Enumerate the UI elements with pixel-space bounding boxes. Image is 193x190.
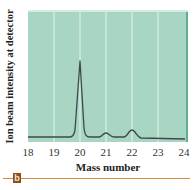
plot-panel — [28, 10, 187, 142]
x-tick: 21 — [101, 146, 112, 158]
x-tick: 20 — [75, 146, 86, 158]
x-axis-label: Mass number — [28, 161, 188, 173]
x-tick: 24 — [179, 146, 190, 158]
panel-divider-rule — [3, 178, 190, 179]
panel-right-edge — [186, 12, 188, 142]
x-tick: 22 — [127, 146, 138, 158]
x-tick: 19 — [49, 146, 60, 158]
x-tick: 18 — [23, 146, 34, 158]
panel-top-edge — [28, 10, 188, 12]
panel-label-badge: b — [13, 173, 21, 183]
x-tick: 23 — [153, 146, 164, 158]
x-axis-ticks: 18 19 20 21 22 23 24 — [0, 146, 193, 160]
